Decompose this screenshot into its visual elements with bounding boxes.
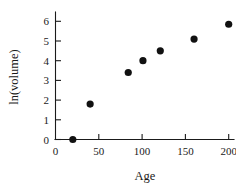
data-point — [125, 69, 132, 76]
data-point — [190, 35, 197, 42]
data-point — [69, 136, 76, 143]
x-tick-label: 0 — [53, 145, 59, 157]
x-axis-ticks: 050100150200 — [53, 134, 236, 157]
data-point — [225, 21, 232, 28]
x-axis-title: Age — [135, 169, 156, 183]
y-axis-ticks: 0123456 — [44, 15, 62, 145]
y-tick-label: 1 — [44, 114, 50, 126]
data-point-series — [69, 21, 232, 143]
y-tick-label: 5 — [44, 35, 50, 47]
data-point — [87, 100, 94, 107]
scatter-plot-figure: 0123456 050100150200 Age ln(volume) — [0, 0, 236, 192]
plot-canvas: 0123456 050100150200 Age ln(volume) — [0, 0, 236, 192]
y-tick-label: 4 — [44, 55, 50, 67]
x-tick-label: 150 — [177, 145, 194, 157]
y-tick-label: 3 — [44, 74, 50, 86]
y-axis-title: ln(volume) — [7, 49, 21, 105]
x-tick-label: 50 — [93, 145, 105, 157]
y-tick-label: 2 — [44, 94, 50, 106]
data-point — [157, 47, 164, 54]
y-tick-label: 6 — [44, 15, 50, 27]
data-point — [139, 57, 146, 64]
y-tick-label: 0 — [44, 134, 50, 146]
x-tick-label: 100 — [134, 145, 151, 157]
x-tick-label: 200 — [220, 145, 236, 157]
